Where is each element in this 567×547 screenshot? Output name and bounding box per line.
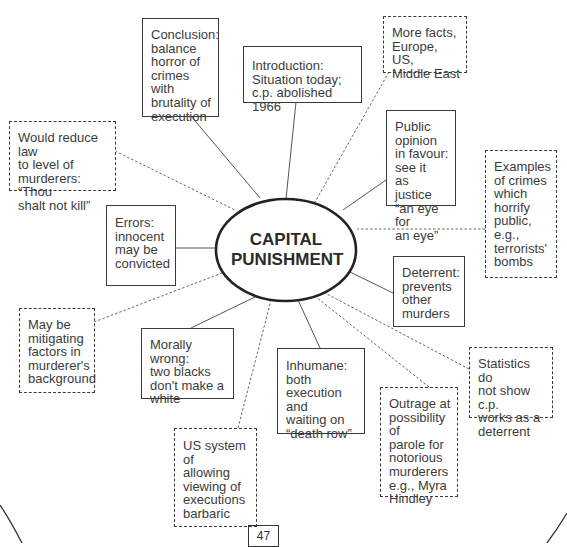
node-deterrent-text: Deterrent: prevents other murders xyxy=(402,266,458,320)
node-would-reduce: Would reduce law to level of murderers: … xyxy=(9,121,116,191)
node-outrage: Outrage at possibility of parole for not… xyxy=(380,387,458,497)
page-curve-left xyxy=(0,505,22,543)
node-us-system-text: US system of allowing viewing of executi… xyxy=(183,439,250,521)
node-morally-wrong: Morally wrong: two blacks don't make a w… xyxy=(141,328,234,399)
central-topic: CAPITAL PUNISHMENT xyxy=(216,200,356,300)
node-outrage-text: Outrage at possibility of parole for not… xyxy=(389,397,451,506)
node-inhumane-text: Inhumane: both execution and waiting on … xyxy=(286,359,358,441)
node-conclusion: Conclusion: balance horror of crimes wit… xyxy=(142,18,219,117)
link-morally-wrong xyxy=(191,297,255,328)
node-mitigating: May be mitigating factors in murderer's … xyxy=(19,308,95,393)
node-inhumane: Inhumane: both execution and waiting on … xyxy=(277,348,365,434)
node-mitigating-text: May be mitigating factors in murderer's … xyxy=(28,318,88,386)
node-more-facts-text: More facts, Europe, US, Middle East xyxy=(392,26,460,80)
link-deterrent xyxy=(350,272,393,293)
central-topic-label: CAPITAL PUNISHMENT xyxy=(231,230,341,270)
node-conclusion-text: Conclusion: balance horror of crimes wit… xyxy=(151,28,212,123)
link-us-system xyxy=(238,300,271,428)
node-introduction: Introduction: Situation today; c.p. abol… xyxy=(243,46,362,103)
node-examples: Examples of crimes which horrify public,… xyxy=(485,150,557,278)
node-public-opinion: Public opinion in favour: see it as just… xyxy=(386,110,456,206)
node-statistics-text: Statistics do not show c.p. works as a d… xyxy=(478,357,546,439)
node-deterrent: Deterrent: prevents other murders xyxy=(393,256,465,327)
node-examples-text: Examples of crimes which horrify public,… xyxy=(494,160,550,269)
node-would-reduce-text: Would reduce law to level of murderers: … xyxy=(18,131,109,213)
link-inhumane xyxy=(298,300,320,348)
node-statistics: Statistics do not show c.p. works as a d… xyxy=(469,347,553,418)
link-introduction xyxy=(286,102,296,199)
node-errors: Errors: innocent may be convicted xyxy=(106,205,176,286)
node-us-system: US system of allowing viewing of executi… xyxy=(174,428,257,527)
node-morally-wrong-text: Morally wrong: two blacks don't make a w… xyxy=(150,338,227,406)
node-introduction-text: Introduction: Situation today; c.p. abol… xyxy=(252,59,355,113)
node-errors-text: Errors: innocent may be convicted xyxy=(115,216,169,270)
node-more-facts: More facts, Europe, US, Middle East xyxy=(383,16,467,73)
page-number: 47 xyxy=(248,525,279,547)
node-public-opinion-text: Public opinion in favour: see it as just… xyxy=(395,120,449,242)
page-curve-right xyxy=(547,513,567,543)
link-conclusion xyxy=(191,116,260,198)
